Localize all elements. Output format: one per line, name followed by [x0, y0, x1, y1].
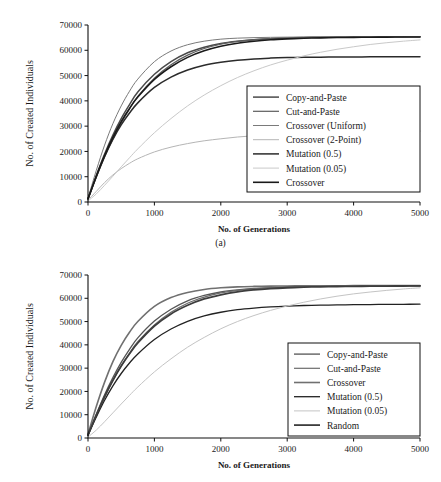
y-tick-label: 70000 [60, 270, 83, 280]
y-tick-label: 60000 [60, 293, 83, 303]
chart-a: 0100002000030000400005000060000700000100… [0, 0, 441, 238]
legend-label: Crossover [286, 178, 325, 188]
x-tick-label: 4000 [345, 444, 364, 454]
legend-label: Cut-and-Paste [286, 107, 340, 117]
legend-label: Cut-and-Paste [327, 364, 381, 374]
x-tick-label: 5000 [411, 208, 430, 218]
y-tick-label: 0 [78, 433, 83, 443]
legend-label: Copy-and-Paste [286, 93, 347, 103]
x-tick-label: 0 [86, 208, 91, 218]
legend-label: Mutation (0.05) [327, 406, 387, 417]
legend-label: Mutation (0.5) [286, 149, 341, 160]
x-tick-label: 0 [86, 444, 91, 454]
y-tick-label: 40000 [60, 340, 83, 350]
y-axis-title: No. of Created Individuals [24, 303, 35, 410]
figure-a: 0100002000030000400005000060000700000100… [0, 0, 441, 255]
x-tick-label: 3000 [278, 444, 297, 454]
legend-label: Copy-and-Paste [327, 350, 388, 360]
y-tick-label: 50000 [60, 71, 83, 81]
y-tick-label: 30000 [60, 363, 83, 373]
legend-label: Crossover [327, 378, 366, 388]
x-tick-label: 2000 [212, 444, 231, 454]
figure-b: 0100002000030000400005000060000700000100… [0, 255, 441, 482]
y-tick-label: 60000 [60, 45, 83, 55]
y-tick-label: 0 [78, 197, 83, 207]
x-tick-label: 3000 [278, 208, 297, 218]
y-tick-label: 10000 [60, 172, 83, 182]
legend-label: Crossover (2-Point) [286, 135, 361, 146]
y-tick-label: 40000 [60, 96, 83, 106]
y-axis-title: No. of Created Individuals [24, 60, 35, 167]
legend-label: Crossover (Uniform) [286, 121, 366, 132]
x-tick-label: 2000 [212, 208, 231, 218]
legend-label: Mutation (0.5) [327, 392, 382, 403]
legend-label: Random [327, 421, 360, 431]
y-tick-label: 70000 [60, 20, 83, 30]
y-tick-label: 10000 [60, 410, 83, 420]
x-tick-label: 1000 [145, 208, 164, 218]
x-tick-label: 5000 [411, 444, 430, 454]
x-tick-label: 4000 [345, 208, 364, 218]
x-axis-title: No. of Generations [218, 460, 291, 470]
x-tick-label: 1000 [145, 444, 164, 454]
y-tick-label: 20000 [60, 387, 83, 397]
figure-a-caption: (a) [0, 238, 441, 248]
y-tick-label: 30000 [60, 121, 83, 131]
legend-label: Mutation (0.05) [286, 164, 346, 175]
y-tick-label: 50000 [60, 317, 83, 327]
y-tick-label: 20000 [60, 147, 83, 157]
chart-b: 0100002000030000400005000060000700000100… [0, 255, 441, 482]
x-axis-title: No. of Generations [218, 224, 291, 234]
